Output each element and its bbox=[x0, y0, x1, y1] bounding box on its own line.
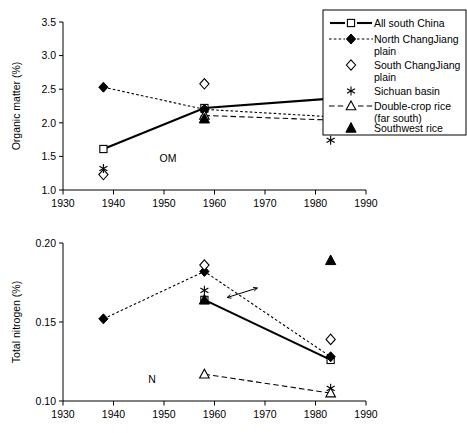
legend-label: South ChangJiang bbox=[374, 59, 461, 71]
y-tick-label: 0.10 bbox=[36, 395, 57, 407]
series-markers-open-triangle bbox=[200, 110, 336, 124]
y-axis-title: Total nitrogen (%) bbox=[10, 281, 22, 363]
series-markers-open-diamond bbox=[99, 79, 335, 180]
x-tick-label: 1970 bbox=[253, 197, 277, 209]
marker-open-diamond bbox=[200, 260, 209, 270]
series-markers-filled-triangle bbox=[199, 27, 335, 123]
marker-filled-diamond bbox=[99, 82, 108, 92]
y-tick-label: 3.0 bbox=[41, 49, 56, 61]
x-tick-label: 1990 bbox=[354, 197, 378, 209]
panel-annotation-label: OM bbox=[160, 152, 177, 164]
y-tick-label: 2.5 bbox=[41, 83, 56, 95]
x-tick-label: 1950 bbox=[152, 408, 176, 420]
series-line-open-triangle bbox=[204, 374, 330, 393]
x-tick-label: 1980 bbox=[304, 197, 328, 209]
x-tick-label: 1980 bbox=[304, 408, 328, 420]
legend-label: Sichuan basin bbox=[374, 85, 440, 97]
x-tick-label: 1940 bbox=[102, 197, 126, 209]
series-markers-asterisk bbox=[99, 109, 334, 173]
legend-label: North ChangJiang bbox=[374, 33, 459, 45]
series-markers-open-triangle bbox=[200, 369, 336, 397]
x-tick-label: 1960 bbox=[203, 408, 227, 420]
figure-container: 1.01.52.02.53.03.51930194019501960197019… bbox=[0, 0, 467, 433]
marker-open-diamond bbox=[326, 334, 335, 344]
double-arrow-annotation bbox=[227, 287, 257, 298]
y-axis-title: Organic matter (%) bbox=[10, 62, 22, 151]
marker-filled-diamond bbox=[99, 314, 108, 324]
x-tick-label: 1940 bbox=[102, 408, 126, 420]
series-line-open-square bbox=[103, 99, 330, 149]
series-markers-filled-triangle bbox=[199, 255, 335, 304]
series-markers-asterisk bbox=[200, 286, 334, 393]
marker-open-triangle bbox=[200, 369, 210, 378]
axis-spines bbox=[63, 22, 366, 190]
chart-svg: 1.01.52.02.53.03.51930194019501960197019… bbox=[0, 0, 467, 433]
marker-open-square bbox=[347, 19, 354, 26]
y-tick-label: 1.5 bbox=[41, 150, 56, 162]
legend-label: All south China bbox=[374, 17, 445, 29]
series-line-open-square bbox=[204, 300, 330, 360]
marker-filled-triangle bbox=[326, 255, 336, 265]
x-tick-label: 1930 bbox=[51, 197, 75, 209]
series-markers-open-square bbox=[100, 95, 334, 153]
legend-label-line2: plain bbox=[374, 45, 396, 57]
x-tick-label: 1930 bbox=[51, 408, 75, 420]
axis-spines bbox=[63, 243, 366, 401]
marker-open-square bbox=[100, 145, 107, 152]
y-tick-label: 2.0 bbox=[41, 117, 56, 129]
legend-label: Southwest rice bbox=[374, 122, 443, 134]
legend-label-line2: plain bbox=[374, 71, 396, 83]
y-tick-label: 0.20 bbox=[36, 237, 57, 249]
series-markers-open-diamond bbox=[200, 260, 335, 345]
series-line-open-triangle bbox=[204, 115, 330, 120]
series-markers-filled-diamond bbox=[99, 266, 335, 361]
panel-annotation-label: N bbox=[148, 373, 156, 385]
x-tick-label: 1950 bbox=[152, 197, 176, 209]
x-tick-label: 1970 bbox=[253, 408, 277, 420]
panel-total-nitrogen: 0.100.150.201930194019501960197019801990… bbox=[10, 237, 378, 420]
y-tick-label: 3.5 bbox=[41, 16, 56, 28]
legend-label: Double-crop rice bbox=[374, 100, 451, 112]
marker-open-diamond bbox=[200, 79, 209, 89]
x-tick-label: 1990 bbox=[354, 408, 378, 420]
y-tick-label: 0.15 bbox=[36, 316, 57, 328]
x-tick-label: 1960 bbox=[203, 197, 227, 209]
y-tick-label: 1.0 bbox=[41, 184, 56, 196]
legend: All south ChinaNorth ChangJiangplainSout… bbox=[323, 10, 466, 135]
